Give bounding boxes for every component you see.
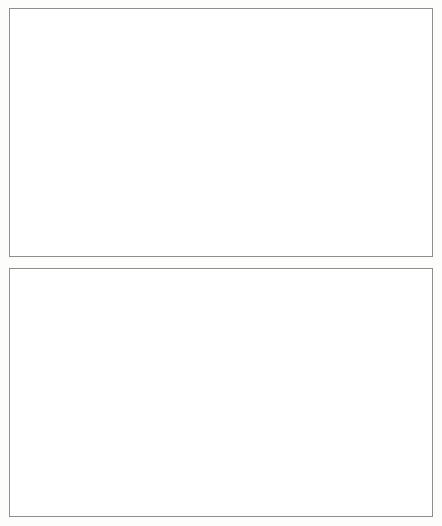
bottom-chart-svg [10, 269, 432, 516]
chart-panel-bottom [9, 268, 433, 517]
figure-container [0, 0, 442, 526]
chart-panel-top [9, 8, 433, 257]
top-chart-svg [10, 9, 432, 256]
